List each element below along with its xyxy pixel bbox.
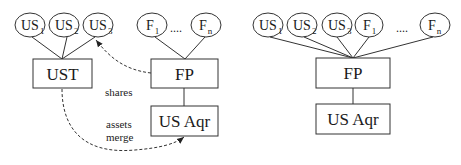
label-merge: merge [106, 131, 133, 143]
node-r-us1-subscript: 1 [278, 26, 283, 36]
diagram-after-merger: US1 US2 US3 F1 .... Fn FP US Aqr [253, 13, 450, 134]
node-r-us3: US3 [322, 13, 352, 37]
node-us3-label: US [89, 18, 107, 33]
edge-fn-fp [185, 37, 205, 59]
ellipsis-dots: .... [170, 21, 182, 35]
node-r-us3-label: US [328, 18, 346, 33]
node-us1: US1 [15, 13, 45, 37]
box-r-fp: FP [316, 58, 390, 88]
node-f1-label: F [146, 18, 154, 33]
node-us1-label: US [21, 18, 39, 33]
box-usaqr: US Aqr [151, 106, 218, 136]
box-fp: FP [151, 59, 218, 88]
merger-diagram: US1 US2 US3 F1 .... Fn UST FP [0, 0, 461, 165]
node-fn: Fn [191, 13, 221, 37]
ellipsis-dots-right: .... [396, 21, 408, 35]
label-shares: shares [105, 86, 133, 98]
box-r-fp-label: FP [344, 64, 363, 83]
node-fn-subscript: n [208, 26, 213, 36]
arrow-shares [96, 40, 151, 73]
box-ust-label: UST [46, 65, 79, 84]
node-r-f1-subscript: 1 [372, 26, 377, 36]
node-r-us2-subscript: 2 [312, 26, 317, 36]
edge-us3-ust [62, 37, 95, 59]
node-f1-subscript: 1 [155, 26, 160, 36]
node-us2-subscript: 2 [74, 26, 79, 36]
label-assets: assets [106, 118, 132, 130]
node-r-us3-subscript: 3 [347, 26, 352, 36]
node-r-f1: F1 [355, 13, 383, 37]
node-r-us1-label: US [259, 18, 277, 33]
node-us3: US3 [83, 13, 113, 37]
node-fn-label: F [199, 18, 207, 33]
box-fp-label: FP [175, 65, 194, 84]
edge-f1-fp [155, 37, 185, 59]
diagram-before-merger: US1 US2 US3 F1 .... Fn UST FP [15, 13, 221, 151]
node-f1: F1 [137, 13, 167, 37]
box-ust: UST [33, 59, 92, 88]
box-r-usaqr: US Aqr [316, 104, 390, 134]
box-r-usaqr-label: US Aqr [327, 110, 379, 129]
node-r-f1-label: F [363, 18, 371, 33]
node-us3-subscript: 3 [108, 26, 113, 36]
node-r-us2-label: US [293, 18, 311, 33]
box-usaqr-label: US Aqr [159, 112, 211, 131]
node-us1-subscript: 1 [40, 26, 45, 36]
node-r-fn-subscript: n [437, 26, 442, 36]
node-r-fn-label: F [428, 18, 436, 33]
node-r-fn: Fn [420, 13, 450, 37]
node-r-us1: US1 [253, 13, 283, 37]
edge-us1-ust [32, 37, 62, 59]
node-r-us2: US2 [287, 13, 317, 37]
node-us2-label: US [55, 18, 73, 33]
edge-r-fn-fp [353, 37, 433, 58]
node-us2: US2 [49, 13, 79, 37]
